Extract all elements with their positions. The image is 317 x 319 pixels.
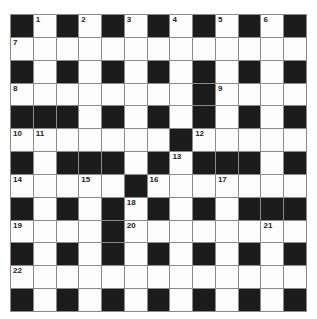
- grid-cell[interactable]: 16: [148, 175, 170, 197]
- grid-cell[interactable]: 17: [216, 175, 238, 197]
- grid-cell[interactable]: [148, 221, 170, 243]
- grid-cell[interactable]: [102, 266, 124, 288]
- grid-cell[interactable]: [261, 61, 283, 83]
- grid-cell[interactable]: [216, 289, 238, 311]
- grid-cell[interactable]: [125, 289, 147, 311]
- grid-cell[interactable]: [193, 266, 215, 288]
- grid-cell[interactable]: [57, 38, 79, 60]
- grid-cell[interactable]: [79, 61, 101, 83]
- grid-cell[interactable]: 22: [11, 266, 33, 288]
- grid-cell[interactable]: [125, 106, 147, 128]
- grid-cell[interactable]: [57, 221, 79, 243]
- grid-cell[interactable]: 10: [11, 129, 33, 151]
- grid-cell[interactable]: [261, 106, 283, 128]
- grid-cell[interactable]: [284, 175, 306, 197]
- grid-cell[interactable]: [34, 221, 56, 243]
- grid-cell[interactable]: 3: [125, 15, 147, 37]
- grid-cell[interactable]: [170, 198, 192, 220]
- grid-cell[interactable]: [284, 221, 306, 243]
- grid-cell[interactable]: [239, 175, 261, 197]
- grid-cell[interactable]: [239, 266, 261, 288]
- grid-cell[interactable]: [216, 61, 238, 83]
- grid-cell[interactable]: [34, 289, 56, 311]
- grid-cell[interactable]: 15: [79, 175, 101, 197]
- grid-cell[interactable]: [148, 84, 170, 106]
- grid-cell[interactable]: [261, 289, 283, 311]
- grid-cell[interactable]: [261, 266, 283, 288]
- grid-cell[interactable]: 12: [193, 129, 215, 151]
- grid-cell[interactable]: [79, 129, 101, 151]
- grid-cell[interactable]: [148, 38, 170, 60]
- grid-cell[interactable]: [284, 129, 306, 151]
- grid-cell[interactable]: [261, 243, 283, 265]
- grid-cell[interactable]: [193, 175, 215, 197]
- grid-cell[interactable]: [261, 129, 283, 151]
- grid-cell[interactable]: [284, 84, 306, 106]
- grid-cell[interactable]: [102, 84, 124, 106]
- grid-cell[interactable]: [216, 243, 238, 265]
- grid-cell[interactable]: [170, 84, 192, 106]
- grid-cell[interactable]: [170, 61, 192, 83]
- grid-cell[interactable]: [125, 266, 147, 288]
- grid-cell[interactable]: [216, 106, 238, 128]
- grid-cell[interactable]: [170, 175, 192, 197]
- grid-cell[interactable]: 8: [11, 84, 33, 106]
- grid-cell[interactable]: [34, 152, 56, 174]
- grid-cell[interactable]: [170, 243, 192, 265]
- grid-cell[interactable]: [125, 129, 147, 151]
- grid-cell[interactable]: [125, 243, 147, 265]
- grid-cell[interactable]: [170, 221, 192, 243]
- grid-cell[interactable]: [125, 38, 147, 60]
- grid-cell[interactable]: 5: [216, 15, 238, 37]
- grid-cell[interactable]: [239, 84, 261, 106]
- grid-cell[interactable]: [239, 38, 261, 60]
- grid-cell[interactable]: [261, 152, 283, 174]
- grid-cell[interactable]: [170, 266, 192, 288]
- grid-cell[interactable]: [57, 129, 79, 151]
- grid-cell[interactable]: [102, 129, 124, 151]
- grid-cell[interactable]: [57, 266, 79, 288]
- grid-cell[interactable]: [57, 84, 79, 106]
- grid-cell[interactable]: 14: [11, 175, 33, 197]
- grid-cell[interactable]: 1: [34, 15, 56, 37]
- grid-cell[interactable]: 9: [216, 84, 238, 106]
- grid-cell[interactable]: [239, 221, 261, 243]
- grid-cell[interactable]: [34, 175, 56, 197]
- grid-cell[interactable]: [193, 38, 215, 60]
- grid-cell[interactable]: 19: [11, 221, 33, 243]
- grid-cell[interactable]: [57, 175, 79, 197]
- grid-cell[interactable]: [34, 243, 56, 265]
- grid-cell[interactable]: [79, 221, 101, 243]
- grid-cell[interactable]: [216, 38, 238, 60]
- grid-cell[interactable]: [125, 61, 147, 83]
- grid-cell[interactable]: [216, 198, 238, 220]
- grid-cell[interactable]: [34, 266, 56, 288]
- grid-cell[interactable]: [79, 198, 101, 220]
- grid-cell[interactable]: [125, 84, 147, 106]
- grid-cell[interactable]: 6: [261, 15, 283, 37]
- grid-cell[interactable]: 2: [79, 15, 101, 37]
- grid-cell[interactable]: [79, 38, 101, 60]
- grid-cell[interactable]: [79, 266, 101, 288]
- grid-cell[interactable]: [102, 38, 124, 60]
- grid-cell[interactable]: [216, 129, 238, 151]
- grid-cell[interactable]: [34, 198, 56, 220]
- grid-cell[interactable]: [34, 61, 56, 83]
- grid-cell[interactable]: [79, 243, 101, 265]
- grid-cell[interactable]: [148, 129, 170, 151]
- grid-cell[interactable]: [170, 38, 192, 60]
- grid-cell[interactable]: [216, 266, 238, 288]
- grid-cell[interactable]: [102, 175, 124, 197]
- grid-cell[interactable]: [261, 38, 283, 60]
- grid-cell[interactable]: 18: [125, 198, 147, 220]
- grid-cell[interactable]: [79, 84, 101, 106]
- grid-cell[interactable]: [284, 38, 306, 60]
- grid-cell[interactable]: [261, 175, 283, 197]
- grid-cell[interactable]: [148, 266, 170, 288]
- grid-cell[interactable]: [284, 266, 306, 288]
- grid-cell[interactable]: [79, 106, 101, 128]
- grid-cell[interactable]: [34, 84, 56, 106]
- grid-cell[interactable]: 4: [170, 15, 192, 37]
- grid-cell[interactable]: [170, 289, 192, 311]
- grid-cell[interactable]: 7: [11, 38, 33, 60]
